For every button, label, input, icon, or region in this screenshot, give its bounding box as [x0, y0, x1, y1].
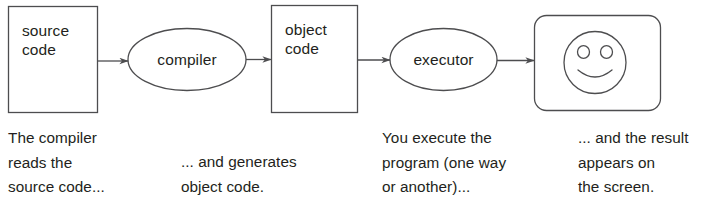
node-label-executor: executor [390, 50, 497, 69]
smiley-face-icon [564, 32, 626, 94]
caption-generates-object: ... and generates object code. [181, 150, 351, 199]
caption-result-screen: ... and the result appears on the screen… [578, 126, 724, 200]
flow-diagram-graphics [0, 0, 724, 124]
caption-row: The compiler reads the source code... ..… [0, 126, 724, 220]
node-label-object-code: object code [285, 20, 361, 58]
caption-you-execute: You execute the program (one way or anot… [382, 126, 557, 200]
node-label-source-code: source code [22, 21, 98, 59]
caption-compiler-reads: The compiler reads the source code... [8, 126, 168, 200]
diagram-canvas: source code compiler object code executo… [0, 0, 724, 220]
node-label-compiler: compiler [128, 50, 246, 69]
